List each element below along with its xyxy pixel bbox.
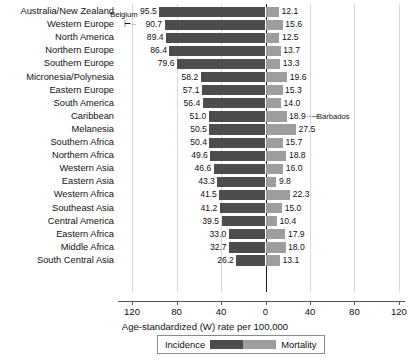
mortality-bar	[266, 229, 286, 239]
x-axis-title: Age-standardized (W) rate per 100,000	[0, 321, 410, 332]
category-label: Northern Europe	[0, 44, 114, 57]
mortality-value-label: 15.7	[285, 136, 302, 149]
chart-row: North America89.412.5	[0, 31, 410, 44]
chart-row: Eastern Asia43.39.8	[0, 175, 410, 188]
mortality-value-label: 15.3	[285, 84, 302, 97]
incidence-bar	[169, 46, 265, 56]
mortality-value-label: 27.5	[299, 123, 316, 136]
annotation-belgium-leader: ⊢··	[124, 20, 136, 29]
x-axis-tick	[221, 301, 222, 305]
category-label: Australia/New Zealand	[0, 5, 114, 18]
x-axis-tick	[266, 301, 267, 305]
incidence-value-label: 41.5	[200, 188, 217, 201]
incidence-bar	[165, 20, 266, 30]
incidence-bar	[222, 216, 266, 226]
incidence-value-label: 89.4	[147, 31, 164, 44]
category-label: North America	[0, 31, 114, 44]
legend-swatch-mortality	[243, 340, 276, 349]
mortality-value-label: 13.7	[283, 44, 300, 57]
incidence-value-label: 26.2	[217, 254, 234, 267]
mortality-bar	[266, 138, 283, 148]
incidence-value-label: 33.0	[210, 228, 227, 241]
x-axis-tick-label: 80	[157, 306, 197, 317]
chart-row: Middle Africa32.718.0	[0, 241, 410, 254]
x-axis-tick-label: 120	[379, 306, 410, 317]
category-label: Western Africa	[0, 188, 114, 201]
mortality-bar	[266, 255, 281, 265]
incidence-bar	[229, 229, 266, 239]
incidence-bar	[166, 33, 265, 43]
mortality-value-label: 18.8	[289, 149, 306, 162]
category-label: Micronesia/Polynesia	[0, 71, 114, 84]
x-axis-tick-label: 40	[201, 306, 241, 317]
category-label: South America	[0, 97, 114, 110]
mortality-value-label: 13.1	[283, 254, 300, 267]
chart-row: Southeast Asia41.215.0	[0, 202, 410, 215]
chart-row: Micronesia/Polynesia58.219.6	[0, 71, 410, 84]
incidence-value-label: 90.7	[145, 18, 162, 31]
mortality-value-label: 12.1	[281, 5, 298, 18]
category-label: Northern Africa	[0, 149, 114, 162]
incidence-bar	[209, 124, 265, 134]
incidence-bar	[209, 138, 265, 148]
mortality-bar	[266, 7, 279, 17]
incidence-value-label: 79.6	[158, 57, 175, 70]
mortality-value-label: 12.5	[282, 31, 299, 44]
chart-row: Central America39.510.4	[0, 215, 410, 228]
incidence-bar	[210, 151, 265, 161]
incidence-bar	[217, 177, 265, 187]
chart-row: Southern Europe79.613.3	[0, 57, 410, 70]
mortality-bar	[266, 177, 277, 187]
incidence-value-label: 41.2	[200, 202, 217, 215]
incidence-value-label: 57.1	[183, 84, 200, 97]
mortality-value-label: 13.3	[283, 57, 300, 70]
chart-row: Eastern Europe57.115.3	[0, 84, 410, 97]
mortality-value-label: 14.0	[284, 97, 301, 110]
chart-row: Western Europe90.715.6	[0, 18, 410, 31]
category-label: Caribbean	[0, 110, 114, 123]
incidence-bar	[159, 7, 265, 17]
mortality-bar	[266, 85, 283, 95]
legend-swatch-incidence	[210, 340, 243, 349]
mortality-bar	[266, 46, 281, 56]
mortality-value-label: 19.6	[290, 71, 307, 84]
mortality-value-label: 16.0	[286, 162, 303, 175]
category-label: Southeast Asia	[0, 202, 114, 215]
category-label: Southern Africa	[0, 136, 114, 149]
chart-row: South Central Asia26.213.1	[0, 254, 410, 267]
incidence-value-label: 32.7	[210, 241, 227, 254]
incidence-bar	[229, 242, 265, 252]
category-label: Middle Africa	[0, 241, 114, 254]
mortality-bar	[266, 98, 282, 108]
category-label: Western Europe	[0, 18, 114, 31]
mortality-bar	[266, 33, 280, 43]
incidence-bar	[214, 164, 266, 174]
incidence-bar	[201, 72, 266, 82]
chart-legend: Incidence Mortality	[157, 335, 325, 354]
incidence-value-label: 46.6	[194, 162, 211, 175]
incidence-value-label: 95.5	[140, 5, 157, 18]
incidence-bar	[209, 111, 266, 121]
chart-row: Northern Africa49.618.8	[0, 149, 410, 162]
plot-area: Australia/New Zealand95.512.1Western Eur…	[0, 0, 410, 300]
mortality-bar	[266, 242, 286, 252]
mortality-bar	[266, 216, 278, 226]
incidence-value-label: 43.3	[198, 175, 215, 188]
incidence-bar	[202, 85, 265, 95]
mortality-value-label: 17.9	[288, 228, 305, 241]
x-axis-tick-label: 40	[290, 306, 330, 317]
mortality-bar	[266, 111, 287, 121]
incidence-value-label: 39.5	[202, 215, 219, 228]
incidence-value-label: 56.4	[184, 97, 201, 110]
incidence-value-label: 51.0	[190, 110, 207, 123]
mortality-value-label: 15.6	[285, 18, 302, 31]
mortality-value-label: 9.8	[279, 175, 291, 188]
chart-row: South America56.414.0	[0, 97, 410, 110]
category-label: Central America	[0, 215, 114, 228]
chart-row: Melanesia50.527.5	[0, 123, 410, 136]
category-label: Southern Europe	[0, 57, 114, 70]
legend-label-incidence: Incidence	[165, 339, 205, 350]
mortality-value-label: 18.9	[289, 110, 306, 123]
x-axis-tick	[132, 301, 133, 305]
x-axis-tick-label: 0	[246, 306, 286, 317]
